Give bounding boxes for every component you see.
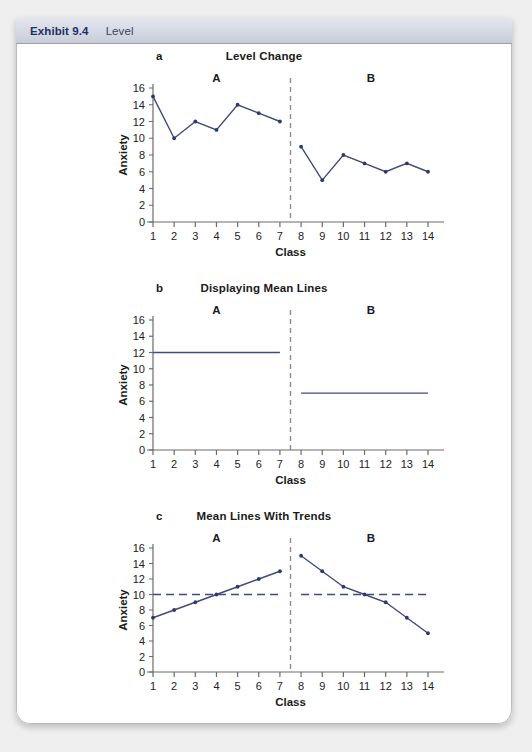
svg-text:0: 0 <box>139 216 145 228</box>
svg-text:13: 13 <box>401 680 413 692</box>
svg-text:7: 7 <box>277 458 283 470</box>
svg-text:2: 2 <box>139 428 145 440</box>
svg-text:12: 12 <box>380 458 392 470</box>
svg-text:1: 1 <box>150 230 156 242</box>
svg-text:10: 10 <box>337 230 349 242</box>
svg-text:8: 8 <box>139 379 145 391</box>
svg-text:16: 16 <box>133 542 145 554</box>
svg-text:12: 12 <box>133 116 145 128</box>
svg-text:B: B <box>367 304 375 316</box>
svg-text:11: 11 <box>359 230 370 242</box>
svg-text:4: 4 <box>213 680 219 692</box>
svg-text:11: 11 <box>359 680 370 692</box>
panel-c-xlabel: Class <box>16 696 512 708</box>
svg-text:14: 14 <box>133 330 145 342</box>
svg-text:2: 2 <box>171 680 177 692</box>
svg-text:14: 14 <box>133 99 145 111</box>
panel-b-title: Displaying Mean Lines <box>16 282 512 294</box>
svg-text:A: A <box>212 304 220 316</box>
svg-text:4: 4 <box>139 635 145 647</box>
svg-text:14: 14 <box>422 230 434 242</box>
svg-text:9: 9 <box>319 458 325 470</box>
svg-text:5: 5 <box>235 680 241 692</box>
svg-text:2: 2 <box>171 458 177 470</box>
svg-text:0: 0 <box>139 666 145 678</box>
svg-text:6: 6 <box>139 620 145 632</box>
svg-text:13: 13 <box>401 230 413 242</box>
panel-c-chart: 02468101214161234567891011121314AB <box>16 530 512 720</box>
svg-text:8: 8 <box>298 230 304 242</box>
panel-c-plot-area: Anxiety 02468101214161234567891011121314… <box>16 530 512 720</box>
svg-text:3: 3 <box>192 230 198 242</box>
svg-text:12: 12 <box>133 347 145 359</box>
svg-text:4: 4 <box>139 412 145 424</box>
svg-text:6: 6 <box>139 166 145 178</box>
svg-text:7: 7 <box>277 680 283 692</box>
svg-text:A: A <box>212 532 220 544</box>
panel-b-xlabel: Class <box>16 474 512 486</box>
svg-text:10: 10 <box>337 680 349 692</box>
svg-text:2: 2 <box>171 230 177 242</box>
svg-text:8: 8 <box>139 149 145 161</box>
panel-a-head: a Level Change <box>16 48 512 70</box>
svg-text:8: 8 <box>298 458 304 470</box>
svg-text:10: 10 <box>133 132 145 144</box>
svg-text:6: 6 <box>256 230 262 242</box>
svg-text:11: 11 <box>359 458 370 470</box>
svg-text:14: 14 <box>133 558 145 570</box>
svg-text:2: 2 <box>139 199 145 211</box>
panel-c-title: Mean Lines With Trends <box>16 510 512 522</box>
svg-text:8: 8 <box>139 604 145 616</box>
svg-text:B: B <box>367 532 375 544</box>
svg-text:1: 1 <box>150 458 156 470</box>
panel-b-plot-area: Anxiety 02468101214161234567891011121314… <box>16 302 512 504</box>
svg-text:14: 14 <box>422 458 434 470</box>
svg-text:3: 3 <box>192 680 198 692</box>
svg-text:10: 10 <box>133 363 145 375</box>
svg-text:2: 2 <box>139 651 145 663</box>
svg-text:7: 7 <box>277 230 283 242</box>
panel-a-plot-area: Anxiety 02468101214161234567891011121314… <box>16 70 512 276</box>
svg-text:10: 10 <box>337 458 349 470</box>
svg-text:1: 1 <box>150 680 156 692</box>
svg-text:14: 14 <box>422 680 434 692</box>
svg-text:6: 6 <box>256 680 262 692</box>
panel-b-head: b Displaying Mean Lines <box>16 280 512 302</box>
svg-text:16: 16 <box>133 314 145 326</box>
svg-text:9: 9 <box>319 230 325 242</box>
exhibit-header: Exhibit 9.4 Level <box>16 18 512 44</box>
svg-text:4: 4 <box>213 230 219 242</box>
panel-c-head: c Mean Lines With Trends <box>16 508 512 530</box>
svg-text:6: 6 <box>139 395 145 407</box>
svg-text:3: 3 <box>192 458 198 470</box>
chart-panel-b: b Displaying Mean Lines Anxiety 02468101… <box>16 280 512 508</box>
svg-text:10: 10 <box>133 589 145 601</box>
exhibit-number: Exhibit 9.4 <box>30 25 89 37</box>
panel-a-xlabel: Class <box>16 246 512 258</box>
chart-panel-a: a Level Change Anxiety 02468101214161234… <box>16 48 512 280</box>
svg-text:8: 8 <box>298 680 304 692</box>
svg-text:6: 6 <box>256 458 262 470</box>
exhibit-card: Exhibit 9.4 Level a Level Change Anxiety… <box>16 18 512 724</box>
svg-text:9: 9 <box>319 680 325 692</box>
chart-panel-c: c Mean Lines With Trends Anxiety 0246810… <box>16 508 512 724</box>
svg-text:4: 4 <box>213 458 219 470</box>
svg-text:4: 4 <box>139 183 145 195</box>
exhibit-page: Exhibit 9.4 Level a Level Change Anxiety… <box>0 0 532 752</box>
svg-text:16: 16 <box>133 82 145 94</box>
svg-text:5: 5 <box>235 230 241 242</box>
svg-text:12: 12 <box>133 573 145 585</box>
svg-text:A: A <box>212 72 220 84</box>
svg-text:12: 12 <box>380 680 392 692</box>
svg-text:5: 5 <box>235 458 241 470</box>
panel-a-title: Level Change <box>16 50 512 62</box>
exhibit-title: Level <box>106 25 134 37</box>
svg-text:B: B <box>367 72 375 84</box>
svg-text:0: 0 <box>139 444 145 456</box>
svg-text:13: 13 <box>401 458 413 470</box>
svg-text:12: 12 <box>380 230 392 242</box>
